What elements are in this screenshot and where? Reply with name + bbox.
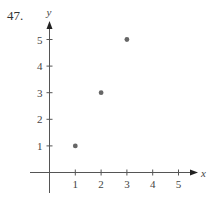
data-point bbox=[125, 37, 130, 42]
scatter-plot: xy1234512345 bbox=[0, 0, 219, 201]
y-tick-label: 3 bbox=[37, 87, 43, 99]
x-axis-arrow-icon bbox=[190, 170, 198, 176]
x-tick-label: 4 bbox=[150, 178, 156, 190]
y-tick-label: 1 bbox=[37, 140, 43, 152]
data-point bbox=[99, 90, 104, 95]
data-point bbox=[73, 144, 78, 149]
x-tick-label: 1 bbox=[73, 178, 79, 190]
y-tick-label: 5 bbox=[37, 34, 43, 46]
y-tick-label: 2 bbox=[37, 113, 43, 125]
x-tick-label: 2 bbox=[98, 178, 104, 190]
y-axis-arrow-icon bbox=[47, 21, 53, 29]
x-tick-label: 3 bbox=[124, 178, 130, 190]
x-axis-label: x bbox=[200, 167, 206, 179]
x-tick-label: 5 bbox=[176, 178, 182, 190]
y-tick-label: 4 bbox=[37, 60, 43, 72]
y-axis-label: y bbox=[46, 6, 52, 18]
